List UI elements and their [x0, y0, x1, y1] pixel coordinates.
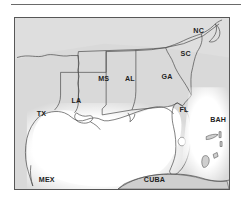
bahamas-island-3 — [220, 142, 222, 147]
label-texas: TX — [37, 110, 47, 118]
figure-root: NC SC GA AL MS LA TX FL BAH CUBA MEX — [0, 0, 246, 208]
label-alabama: AL — [125, 75, 135, 83]
label-louisiana: LA — [71, 97, 81, 105]
label-bahamas: BAH — [210, 116, 226, 124]
bahamas-island-2 — [219, 132, 221, 138]
label-mississippi: MS — [98, 75, 109, 83]
label-mexico: MEX — [39, 176, 55, 184]
label-florida: FL — [179, 106, 189, 114]
top-horizontal-rule — [11, 4, 241, 5]
label-cuba: CUBA — [144, 176, 165, 184]
map-frame: NC SC GA AL MS LA TX FL BAH CUBA MEX — [14, 17, 230, 190]
label-georgia: GA — [162, 73, 173, 81]
map-canvas: NC SC GA AL MS LA TX FL BAH CUBA MEX — [15, 18, 229, 189]
label-south-carolina: SC — [180, 50, 190, 58]
label-north-carolina: NC — [193, 27, 204, 35]
